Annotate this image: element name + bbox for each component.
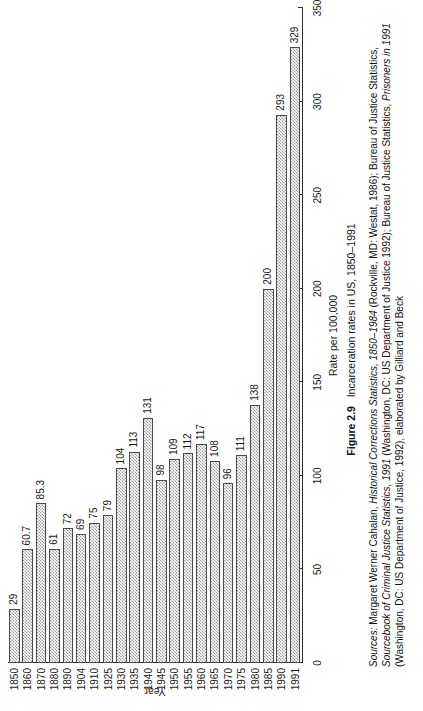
bar-row: 190469 [75,8,88,663]
bar-value-label: 111 [236,436,247,455]
bar-value-label: 79 [103,500,114,515]
category-axis-title: Year [144,686,165,698]
source-text: (Washington, DC: US Department of Justic… [381,101,392,459]
category-label: 1880 [48,668,61,690]
bar [103,515,114,663]
bar [89,523,100,663]
category-label: 1970 [222,668,235,690]
bar [276,115,287,663]
value-axis-line [302,8,303,663]
bar [22,549,33,663]
bar-value-label: 60.7 [22,526,33,549]
bar-value-label: 75 [89,508,100,523]
rotated-figure-container: 050100150200250300350 185029186060.71870… [0,0,423,711]
bar-row: 188061 [48,8,61,663]
bar [290,47,301,663]
bar [183,453,194,663]
bar [36,503,47,663]
bar-value-label: 109 [169,438,180,459]
value-tick-label: 0 [313,660,323,666]
sources-label: Sources: [368,628,379,667]
category-label: 1935 [128,668,141,690]
chart-container: 050100150200250300350 185029186060.71870… [0,0,330,711]
bar-row: 1991329 [289,8,302,663]
bar-row: 1940131 [142,8,155,663]
bar-value-label: 293 [276,94,287,115]
bar-value-label: 329 [290,27,301,48]
source-title: Prisoners in 1991 [381,23,392,101]
bar [9,609,20,663]
bar [263,289,274,663]
bar-value-label: 85.3 [36,480,47,503]
bar-row: 189072 [61,8,74,663]
bar [169,459,180,663]
figure-page: 050100150200250300350 185029186060.71870… [0,0,423,711]
bar-value-label: 108 [210,440,221,461]
category-label: 1950 [168,668,181,690]
value-tick-label: 150 [313,374,323,391]
category-label: 1904 [75,668,88,690]
category-label: 1960 [195,668,208,690]
bar-row: 194598 [155,8,168,663]
figure-number: Figure 2.9 [345,406,357,456]
bar-value-label: 131 [143,397,154,418]
bar-value-label: 117 [196,424,207,444]
bar-row: 1950109 [168,8,181,663]
bar [236,455,247,663]
value-tick-label: 200 [313,280,323,297]
category-label: 1975 [235,668,248,690]
sources-body: Margaret Werner Cahalan, Historical Corr… [368,23,405,667]
bar-row: 1975111 [235,8,248,663]
category-label: 1930 [115,668,128,690]
bar-value-label: 113 [129,432,140,452]
bar-value-label: 200 [263,268,274,289]
value-tick-label: 350 [313,0,323,16]
bar-value-label: 61 [49,534,60,549]
bar-row: 1965108 [208,8,221,663]
bar [196,444,207,663]
value-axis-title: Rate per 100,000 [327,8,339,663]
bar-value-label: 98 [156,464,167,479]
category-label: 1860 [21,668,34,690]
bar-value-label: 138 [250,384,261,405]
bar-row: 1955112 [182,8,195,663]
bar-row: 186060.7 [21,8,34,663]
bar-value-label: 96 [223,468,234,483]
plot-area: 050100150200250300350 185029186060.71870… [8,8,302,663]
bar [63,528,74,663]
bar-row: 185029 [8,8,21,663]
value-tick-label: 250 [313,187,323,204]
value-tick-label: 50 [313,564,323,575]
value-tick-label: 100 [313,468,323,485]
category-label: 1925 [102,668,115,690]
bar-row: 1935113 [128,8,141,663]
caption-block: Figure 2.9 Incarceration rates in US, 18… [345,12,407,667]
value-tick-label: 300 [313,93,323,110]
bar [210,461,221,663]
bar [129,452,140,663]
category-label: 1965 [208,668,221,690]
category-label: 1955 [182,668,195,690]
bar [116,468,127,663]
source-title: Sourcebook of Criminal Justice Statistic… [381,459,392,667]
category-label: 1910 [88,668,101,690]
source-text: Margaret Werner Cahalan, [368,504,379,628]
bar-row: 1960117 [195,8,208,663]
bar [76,534,87,663]
source-text: (Washington, DC: US Department of Justic… [394,296,405,667]
category-label: 1870 [35,668,48,690]
bar-value-label: 112 [183,433,194,453]
bar [156,480,167,663]
figure-title [345,397,357,406]
category-label: 1985 [262,668,275,690]
bar [223,483,234,663]
category-label: 1980 [249,668,262,690]
category-label: 1890 [61,668,74,690]
figure-title-text: Incarceration rates in US, 1850–1991 [345,223,357,397]
bar-row: 192579 [102,8,115,663]
source-text: (Rockville, MD: Westat, 1986); Bureau of… [368,47,379,310]
bar-value-label: 29 [9,594,20,609]
category-label: 1990 [275,668,288,690]
bar [49,549,60,663]
bar-row: 191075 [88,8,101,663]
